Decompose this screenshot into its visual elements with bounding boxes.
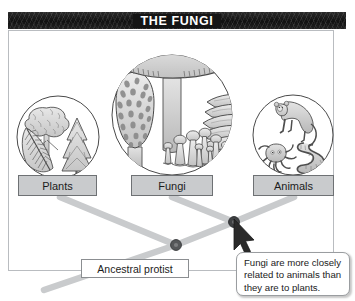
taxa-label-plants[interactable]: Plants bbox=[18, 175, 97, 196]
ancestral-protist-label[interactable]: Ancestral protist bbox=[81, 259, 189, 278]
fungi-phylogeny-figure: THE FUNGI bbox=[0, 0, 355, 301]
fungi-circle-icon bbox=[109, 36, 253, 175]
taxa-label-fungi[interactable]: Fungi bbox=[131, 175, 213, 196]
cursor-arrow-icon bbox=[234, 219, 254, 255]
plants-circle-icon bbox=[17, 96, 99, 178]
ancestral-protist-node-highlight bbox=[174, 243, 178, 247]
taxa-label-animals[interactable]: Animals bbox=[253, 175, 334, 196]
branch-to-animals bbox=[234, 197, 294, 222]
branch-to-fungi bbox=[172, 197, 234, 222]
bracket-fungus-icon bbox=[202, 94, 253, 149]
callout-box: Fungi are more closely related to animal… bbox=[236, 252, 350, 296]
page-title: THE FUNGI bbox=[133, 14, 222, 28]
branch-to-common-ancestor bbox=[176, 222, 234, 245]
animals-circle-icon bbox=[253, 95, 333, 175]
branch-to-plants bbox=[60, 197, 176, 245]
